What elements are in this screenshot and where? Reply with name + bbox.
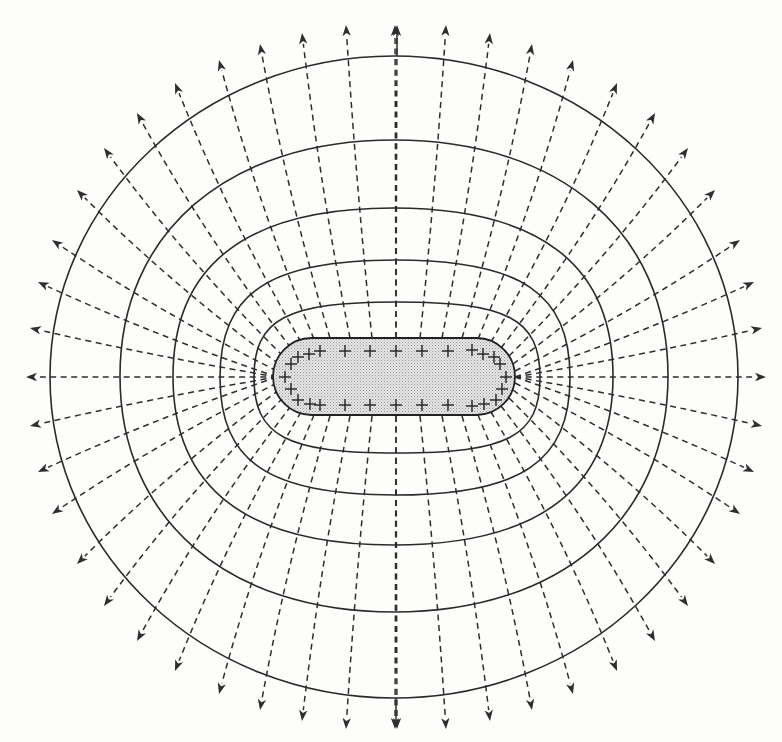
field-arrowhead-icon [646, 629, 655, 641]
diagram-canvas: Electric field lines and equipotential s… [0, 0, 782, 742]
field-arrowhead-icon [175, 659, 183, 671]
field-line [48, 377, 277, 467]
field-line [61, 246, 277, 371]
field-arrowhead-icon [729, 240, 740, 250]
field-arrowhead-icon [38, 282, 50, 290]
field-line [515, 246, 731, 371]
field-arrowhead-icon [609, 83, 617, 95]
field-line [61, 383, 277, 508]
field-arrowhead-icon [485, 710, 493, 721]
field-arrowhead-icon [137, 629, 146, 641]
field-arrowhead-icon [646, 113, 655, 125]
field-line [222, 71, 314, 339]
field-arrowhead-icon [485, 33, 493, 44]
field-line [515, 383, 731, 508]
field-line [515, 377, 751, 424]
field-line [395, 36, 396, 338]
field-line [85, 198, 279, 364]
field-line [515, 287, 744, 377]
field-arrowhead-icon [258, 698, 266, 710]
field-arrowhead-icon [104, 595, 114, 606]
field-line [478, 415, 570, 683]
field-line [442, 44, 489, 338]
field-arrowhead-icon [742, 282, 754, 290]
field-arrowhead-icon [678, 148, 688, 159]
field-arrowhead-icon [299, 710, 307, 721]
field-line [515, 330, 751, 377]
field-arrowhead-icon [137, 113, 146, 125]
field-line [41, 377, 277, 424]
field-arrowhead-icon [526, 698, 534, 710]
field-arrowhead-icon [52, 240, 63, 250]
field-arrowhead-icon [750, 326, 762, 334]
field-arrowhead-icon [441, 25, 449, 36]
field-line [85, 390, 279, 556]
field-line [501, 406, 650, 631]
field-arrowhead-icon [742, 464, 754, 472]
field-line [491, 412, 613, 661]
field-line [442, 416, 489, 710]
field-arrowhead-icon [750, 419, 762, 427]
field-arrowhead-icon [755, 373, 766, 381]
field-line [501, 123, 650, 348]
field-arrowhead-icon [343, 718, 351, 729]
field-diagram [0, 0, 782, 742]
field-line [48, 287, 277, 377]
field-line [41, 330, 277, 377]
field-arrowhead-icon [678, 595, 688, 606]
field-arrowhead-icon [30, 326, 42, 334]
field-line [303, 416, 350, 710]
field-line [347, 36, 372, 338]
field-arrowhead-icon [30, 419, 42, 427]
field-arrowhead-icon [566, 682, 574, 694]
field-line [420, 416, 445, 718]
field-arrowhead-icon [526, 44, 534, 56]
field-arrowhead-icon [26, 373, 37, 381]
field-arrowhead-icon [38, 464, 50, 472]
field-arrowhead-icon [566, 60, 574, 72]
field-line [478, 71, 570, 339]
field-arrowhead-icon [299, 33, 307, 44]
field-line [222, 415, 314, 683]
field-arrowhead-icon [609, 659, 617, 671]
field-arrowhead-icon [218, 682, 226, 694]
field-line [420, 36, 445, 338]
field-arrowhead-icon [729, 504, 740, 514]
field-line [395, 416, 396, 718]
field-line [515, 377, 744, 467]
field-arrowhead-icon [52, 504, 63, 514]
field-arrowhead-icon [343, 25, 351, 36]
field-line [303, 44, 350, 338]
field-arrowhead-icon [104, 148, 114, 159]
field-line [491, 93, 613, 342]
field-arrowhead-icon [441, 718, 449, 729]
field-line [347, 416, 372, 718]
field-arrowhead-icon [258, 44, 266, 56]
field-line [142, 406, 291, 631]
field-arrowhead-icon [218, 60, 226, 72]
field-arrowhead-icon [175, 83, 183, 95]
